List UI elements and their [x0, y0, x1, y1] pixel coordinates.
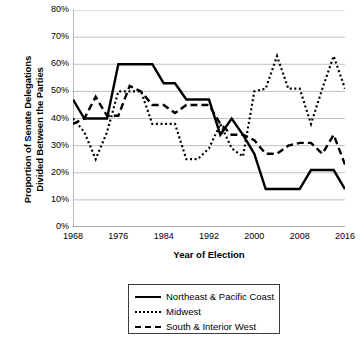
legend-item-midwest: Midwest	[135, 304, 279, 319]
plot-area	[73, 10, 345, 227]
legend-label-midwest: Midwest	[166, 306, 201, 317]
data-series	[73, 56, 345, 189]
plot-svg	[73, 10, 345, 227]
chart-legend: Northeast & Pacific Coast Midwest South …	[128, 284, 280, 334]
y-axis-tick-label: 30%	[37, 141, 69, 150]
x-axis-tick-label: 2000	[234, 231, 274, 241]
y-axis-tick-label: 60%	[37, 59, 69, 68]
x-axis-tick-labels: 1968197619841992200020082016	[0, 231, 364, 247]
legend-item-northeast-pacific-coast: Northeast & Pacific Coast	[135, 289, 279, 304]
y-axis-tick-label: 10%	[37, 195, 69, 204]
series-line-northeast-pacific-coast	[73, 64, 345, 189]
y-axis-tick-label: 0%	[37, 222, 69, 231]
x-axis-title: Year of Election	[73, 249, 345, 260]
legend-label-south-interior-west: South & Interior West	[166, 321, 256, 332]
x-axis-tick-label: 2008	[280, 231, 320, 241]
series-line-south-interior-west	[73, 86, 345, 165]
x-axis-tick-label: 1968	[53, 231, 93, 241]
y-axis-tick-label: 20%	[37, 168, 69, 177]
legend-swatch-dotted-icon	[135, 307, 161, 317]
y-axis-tick-label: 70%	[37, 32, 69, 41]
series-line-midwest	[73, 56, 345, 159]
y-axis-tick-labels: 0%10%20%30%40%50%60%70%80%	[33, 0, 69, 339]
y-axis-tick-label: 80%	[37, 5, 69, 14]
legend-swatch-dashed-icon	[135, 322, 161, 332]
chart-figure: Proportion of Senate Delegations Divided…	[0, 0, 364, 339]
x-axis-tick-label: 1984	[144, 231, 184, 241]
gridlines	[73, 10, 345, 200]
x-axis-tick-label: 1992	[189, 231, 229, 241]
x-axis-tick-label: 2016	[325, 231, 364, 241]
y-axis-tick-label: 50%	[37, 86, 69, 95]
y-axis-title-line1: Proportion of Senate Delegations	[22, 22, 34, 237]
x-axis-tick-label: 1976	[98, 231, 138, 241]
legend-label-northeast-pacific-coast: Northeast & Pacific Coast	[166, 291, 274, 302]
legend-swatch-solid-icon	[135, 292, 161, 302]
y-axis-tick-label: 40%	[37, 114, 69, 123]
legend-item-south-interior-west: South & Interior West	[135, 319, 279, 334]
